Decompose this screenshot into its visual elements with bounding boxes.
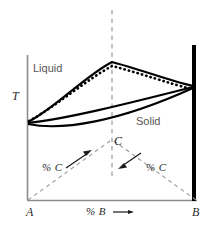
axis-label-temperature: T bbox=[12, 90, 19, 102]
percent-b-arrow bbox=[113, 210, 134, 214]
diagram-canvas bbox=[0, 0, 202, 228]
annotation-percent-c-right: % C bbox=[146, 162, 166, 173]
percent-c-left-arrow bbox=[66, 150, 92, 168]
corner-label-c: C bbox=[114, 135, 122, 147]
corner-label-b: B bbox=[192, 206, 199, 218]
region-label-liquid: Liquid bbox=[33, 63, 62, 74]
annotation-percent-b: % B bbox=[86, 206, 106, 217]
corner-label-a: A bbox=[26, 206, 33, 218]
phase-diagram-figure: Liquid Solid T A B C % C % C % B bbox=[0, 0, 202, 228]
annotation-percent-c-left: % C bbox=[42, 162, 62, 173]
dashed-guide-a-to-c bbox=[28, 141, 110, 200]
region-label-solid: Solid bbox=[136, 116, 160, 127]
percent-c-right-arrow bbox=[118, 153, 141, 169]
